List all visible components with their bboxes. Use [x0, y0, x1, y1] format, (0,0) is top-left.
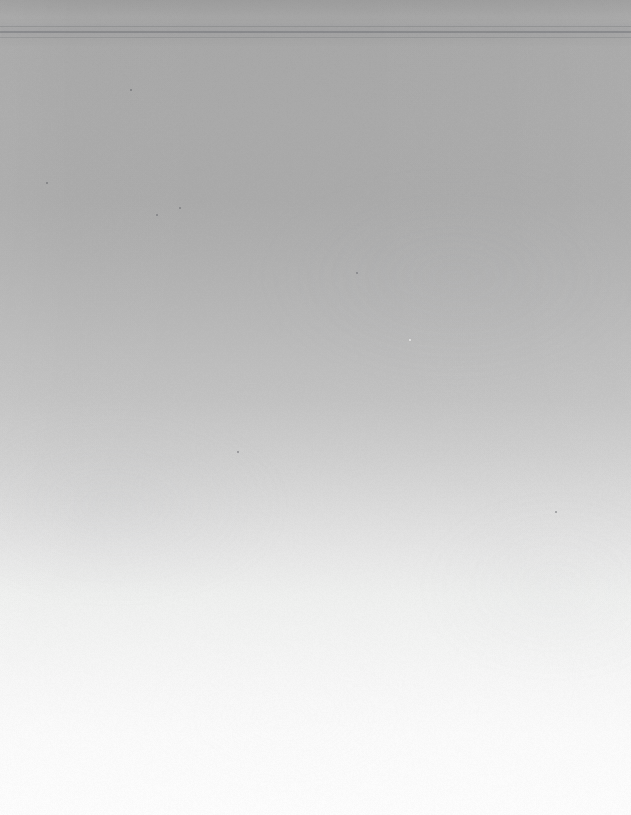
scanner-streak-upper [0, 26, 631, 27]
streak-haze [0, 20, 631, 46]
dust-speck-5 [130, 89, 132, 91]
dust-speck-2 [156, 214, 158, 216]
dust-speck-3 [356, 272, 359, 275]
dust-speck-4 [409, 339, 411, 341]
dust-speck-layer [0, 0, 631, 815]
dust-speck-6 [46, 182, 47, 183]
scanner-streak-middle [0, 31, 631, 33]
scanner-streak-lower [0, 37, 631, 38]
dust-speck-8 [555, 511, 557, 513]
paper-grain-layer [0, 0, 631, 815]
edge-shading-layer [0, 0, 631, 815]
dust-speck-1 [179, 207, 181, 209]
dust-speck-7 [237, 451, 239, 453]
scanned-page-canvas [0, 0, 631, 815]
tonal-mottling-layer [0, 0, 631, 815]
